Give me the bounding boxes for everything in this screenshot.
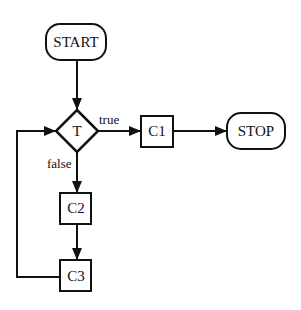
process-node-c1: C1 <box>141 116 173 147</box>
stop-node: STOP <box>227 113 285 149</box>
edge-loop-back <box>17 131 60 277</box>
start-label: START <box>53 34 98 50</box>
decision-node-t: T <box>56 110 98 152</box>
process-node-c2: C2 <box>60 193 91 224</box>
c2-label: C2 <box>67 200 85 216</box>
true-label: true <box>99 112 119 127</box>
stop-label: STOP <box>238 123 274 139</box>
process-node-c3: C3 <box>60 260 91 291</box>
c1-label: C1 <box>148 123 166 139</box>
start-node: START <box>46 24 106 60</box>
flowchart-diagram: START T true C1 STOP false C2 C3 <box>0 0 301 310</box>
c3-label: C3 <box>67 268 85 284</box>
false-label: false <box>47 156 72 171</box>
decision-label: T <box>72 123 81 139</box>
